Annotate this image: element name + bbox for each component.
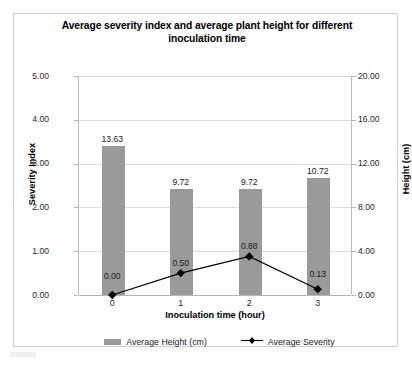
y-axis-left-tick-mark: [74, 295, 78, 296]
x-axis-tick-label: 2: [229, 298, 269, 308]
line-diamond-icon: [241, 336, 263, 347]
y-axis-left-tick-label: 0.00: [32, 291, 49, 300]
y-axis-left-tick-mark: [74, 120, 78, 121]
y-axis-right-tick-mark: [352, 251, 356, 252]
y-axis-right-tick-label: 12.00: [358, 159, 380, 168]
y-axis-right-tick-label: 4.00: [358, 247, 375, 256]
chart-title-line-1: Average severity index and average plant…: [62, 20, 353, 31]
chart-frame: Average severity index and average plant…: [13, 13, 398, 347]
legend-label-average-height: Average Height (cm): [126, 337, 207, 347]
chart-legend: Average Height (cm) Average Severity: [27, 336, 412, 347]
y-axis-right-tick-mark: [352, 295, 356, 296]
y-axis-right-tick-mark: [352, 207, 356, 208]
x-axis-tick-label: 0: [92, 298, 132, 308]
y-axis-right-tick-label: 8.00: [358, 203, 375, 212]
severity-value-label: 0.13: [296, 269, 340, 279]
gridline: [79, 295, 351, 296]
x-axis-title: Inoculation time (hour): [78, 310, 352, 320]
y-axis-left-tick-label: 4.00: [32, 115, 49, 124]
legend-item-average-height: Average Height (cm): [104, 337, 207, 347]
legend-label-average-severity: Average Severity: [268, 337, 335, 347]
y-axis-right-tick-label: 16.00: [358, 115, 380, 124]
severity-value-label: 0.50: [159, 258, 203, 268]
y-axis-left-tick-mark: [74, 164, 78, 165]
y-axis-right-tick-mark: [352, 76, 356, 77]
y-axis-left-tick-mark: [74, 251, 78, 252]
y-axis-left-tick-mark: [74, 76, 78, 77]
bar-value-label: 13.63: [90, 134, 134, 144]
y-axis-right-tick-mark: [352, 164, 356, 165]
severity-marker: [177, 269, 185, 277]
bar-value-label: 10.72: [296, 166, 340, 176]
y-axis-right-tick-label: 0.00: [358, 291, 375, 300]
legend-item-average-severity: Average Severity: [241, 336, 335, 347]
scan-artifact: [10, 352, 36, 357]
y-axis-left-tick-label: 1.00: [32, 247, 49, 256]
severity-marker: [245, 252, 253, 260]
x-axis-tick-label: 3: [298, 298, 338, 308]
bar-swatch-icon: [104, 339, 121, 345]
y-axis-left-tick-label: 2.00: [32, 203, 49, 212]
y-axis-right-title: Height (cm): [401, 109, 411, 229]
y-axis-left-tick-label: 5.00: [32, 72, 49, 81]
severity-marker: [314, 285, 322, 293]
severity-value-label: 0.88: [227, 241, 271, 251]
severity-line: [112, 256, 318, 295]
chart-title: Average severity index and average plant…: [42, 20, 372, 45]
y-axis-right-tick-label: 20.00: [358, 72, 380, 81]
severity-line-series: [78, 76, 352, 295]
chart-title-line-2: inoculation time: [168, 33, 245, 44]
x-axis-tick-label: 1: [161, 298, 201, 308]
bar-value-label: 9.72: [227, 177, 271, 187]
y-axis-right-tick-mark: [352, 120, 356, 121]
y-axis-left-tick-label: 3.00: [32, 159, 49, 168]
y-axis-left-title: Severity Index: [27, 114, 37, 234]
severity-value-label: 0.00: [90, 271, 134, 281]
y-axis-left-tick-mark: [74, 207, 78, 208]
bar-value-label: 9.72: [159, 177, 203, 187]
